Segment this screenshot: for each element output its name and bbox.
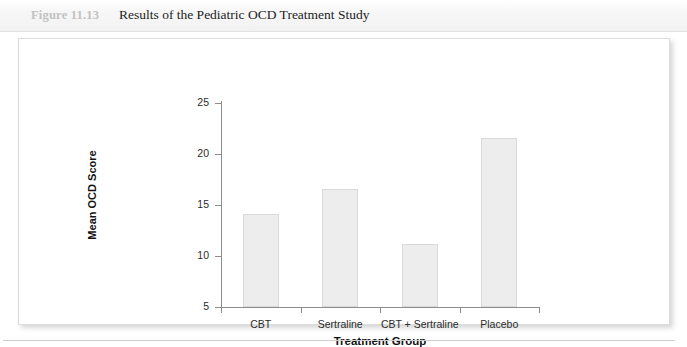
x-tick-mark	[380, 307, 381, 313]
x-tick-label: Sertraline	[318, 318, 363, 330]
x-tick-label: Placebo	[480, 318, 518, 330]
header-divider	[0, 31, 687, 32]
bar	[402, 244, 438, 307]
page-bottom-rule	[3, 340, 675, 341]
bar	[322, 189, 358, 307]
y-axis-title: Mean OCD Score	[86, 115, 98, 275]
bar	[243, 214, 279, 307]
x-tick-label: CBT + Sertraline	[381, 318, 459, 330]
x-axis-title: Treatment Group	[221, 335, 539, 347]
bar	[481, 138, 517, 307]
y-tick-mark	[215, 205, 221, 206]
y-tick-mark	[215, 103, 221, 104]
x-tick-mark	[301, 307, 302, 313]
y-tick-label: 25	[169, 96, 209, 108]
x-tick-mark	[539, 307, 540, 313]
figure-number: Figure 11.13	[31, 8, 99, 23]
y-tick-label: 10	[169, 249, 209, 261]
y-axis-line	[221, 101, 222, 309]
y-tick-label: 15	[169, 198, 209, 210]
y-tick-label: 20	[169, 147, 209, 159]
x-tick-label: CBT	[250, 318, 271, 330]
x-tick-mark	[460, 307, 461, 313]
figure-caption-title: Results of the Pediatric OCD Treatment S…	[119, 7, 370, 23]
x-tick-mark	[221, 307, 222, 313]
y-tick-mark	[215, 256, 221, 257]
y-tick-mark	[215, 154, 221, 155]
chart-panel: Mean OCD Score Treatment Group 510152025…	[18, 38, 670, 325]
y-tick-label: 5	[169, 300, 209, 312]
